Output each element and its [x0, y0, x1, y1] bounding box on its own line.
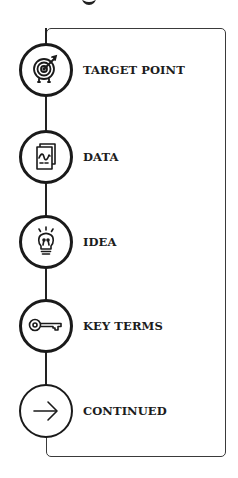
- step-key-terms: KEY TERMS: [0, 299, 238, 353]
- step-label: IDEA: [83, 235, 116, 249]
- step-label: CONTINUED: [83, 404, 167, 418]
- step-circle: [19, 299, 73, 353]
- step-label: KEY TERMS: [83, 319, 163, 333]
- step-idea: IDEA: [0, 215, 238, 269]
- arrow-right-icon: [31, 398, 61, 424]
- step-circle: [19, 43, 73, 97]
- step-data: DATA: [0, 130, 238, 184]
- key-icon: [28, 316, 64, 336]
- cropped-title-fragment: [82, 0, 96, 5]
- step-circle: [19, 215, 73, 269]
- step-target-point: TARGET POINT: [0, 43, 238, 97]
- lightbulb-icon: [31, 225, 61, 259]
- step-circle: [19, 130, 73, 184]
- step-circle: [19, 384, 73, 438]
- step-label: TARGET POINT: [83, 63, 185, 77]
- step-label: DATA: [83, 150, 119, 164]
- data-document-icon: [31, 141, 61, 173]
- step-continued: CONTINUED: [0, 384, 238, 438]
- target-icon: [29, 53, 63, 87]
